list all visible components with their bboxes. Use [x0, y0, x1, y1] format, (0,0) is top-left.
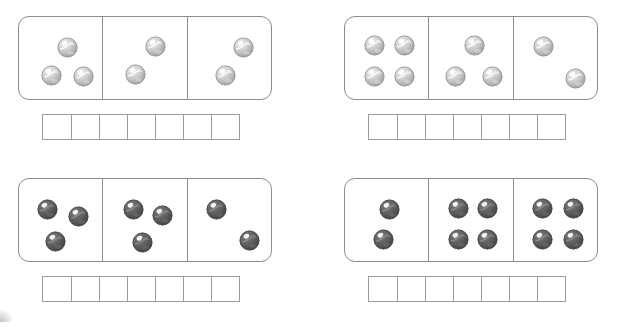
problem-4 — [330, 170, 620, 320]
light-gray-swirl-marble — [73, 66, 94, 87]
dark-gray-swirl-marble — [132, 232, 153, 253]
answer-grid — [42, 114, 240, 140]
answer-grid — [368, 114, 566, 140]
dark-gray-swirl-marble — [123, 199, 144, 220]
dark-gray-swirl-marble — [152, 205, 173, 226]
domino-cell — [428, 179, 512, 261]
domino-cell — [345, 17, 428, 99]
light-gray-swirl-marble — [215, 65, 236, 86]
light-gray-swirl-marble — [364, 35, 385, 56]
dark-gray-swirl-marble — [477, 229, 498, 250]
domino-cell — [513, 179, 597, 261]
domino-frame — [18, 178, 272, 262]
answer-cell[interactable] — [425, 277, 453, 301]
answer-cell[interactable] — [155, 277, 183, 301]
domino-cell — [345, 179, 428, 261]
problem-2 — [330, 8, 620, 158]
domino-frame — [344, 178, 598, 262]
dark-gray-swirl-marble — [532, 198, 553, 219]
answer-cell[interactable] — [397, 115, 425, 139]
light-gray-swirl-marble — [394, 35, 415, 56]
answer-cell[interactable] — [99, 277, 127, 301]
answer-cell[interactable] — [183, 115, 211, 139]
answer-cell[interactable] — [183, 277, 211, 301]
dark-gray-swirl-marble — [448, 229, 469, 250]
light-gray-swirl-marble — [125, 64, 146, 85]
worksheet-page — [0, 0, 629, 327]
answer-cell[interactable] — [127, 277, 155, 301]
dark-gray-swirl-marble — [379, 199, 400, 220]
problem-3 — [4, 170, 294, 320]
dark-gray-swirl-marble — [448, 198, 469, 219]
answer-cell[interactable] — [481, 277, 509, 301]
domino-cell — [102, 179, 186, 261]
answer-grid — [42, 276, 240, 302]
answer-grid — [368, 276, 566, 302]
dark-gray-swirl-marble — [563, 229, 584, 250]
dark-gray-swirl-marble — [532, 229, 553, 250]
answer-cell[interactable] — [43, 277, 71, 301]
answer-cell[interactable] — [71, 115, 99, 139]
light-gray-swirl-marble — [533, 36, 554, 57]
light-gray-swirl-marble — [464, 35, 485, 56]
answer-cell[interactable] — [453, 277, 481, 301]
answer-cell[interactable] — [369, 115, 397, 139]
answer-cell[interactable] — [509, 115, 537, 139]
light-gray-swirl-marble — [482, 66, 503, 87]
dark-gray-swirl-marble — [239, 230, 260, 251]
answer-cell[interactable] — [211, 277, 239, 301]
dark-gray-swirl-marble — [206, 199, 227, 220]
answer-cell[interactable] — [537, 115, 565, 139]
light-gray-swirl-marble — [233, 37, 254, 58]
domino-cell — [19, 179, 102, 261]
answer-cell[interactable] — [397, 277, 425, 301]
answer-cell[interactable] — [453, 115, 481, 139]
domino-cell — [513, 17, 597, 99]
answer-cell[interactable] — [211, 115, 239, 139]
answer-cell[interactable] — [155, 115, 183, 139]
domino-cell — [428, 17, 512, 99]
domino-cell — [187, 179, 271, 261]
answer-cell[interactable] — [425, 115, 453, 139]
light-gray-swirl-marble — [145, 36, 166, 57]
light-gray-swirl-marble — [565, 68, 586, 89]
answer-cell[interactable] — [99, 115, 127, 139]
dark-gray-swirl-marble — [563, 198, 584, 219]
answer-cell[interactable] — [127, 115, 155, 139]
light-gray-swirl-marble — [57, 37, 78, 58]
answer-cell[interactable] — [537, 277, 565, 301]
problem-1 — [4, 8, 294, 158]
domino-cell — [187, 17, 271, 99]
answer-cell[interactable] — [369, 277, 397, 301]
dark-gray-swirl-marble — [68, 206, 89, 227]
domino-cell — [19, 17, 102, 99]
light-gray-swirl-marble — [394, 66, 415, 87]
dark-gray-swirl-marble — [477, 198, 498, 219]
dark-gray-swirl-marble — [37, 199, 58, 220]
light-gray-swirl-marble — [445, 66, 466, 87]
answer-cell[interactable] — [71, 277, 99, 301]
answer-cell[interactable] — [509, 277, 537, 301]
light-gray-swirl-marble — [364, 66, 385, 87]
answer-cell[interactable] — [481, 115, 509, 139]
domino-frame — [18, 16, 272, 100]
domino-cell — [102, 17, 186, 99]
dark-gray-swirl-marble — [45, 231, 66, 252]
light-gray-swirl-marble — [41, 65, 62, 86]
domino-frame — [344, 16, 598, 100]
dark-gray-swirl-marble — [373, 229, 394, 250]
answer-cell[interactable] — [43, 115, 71, 139]
